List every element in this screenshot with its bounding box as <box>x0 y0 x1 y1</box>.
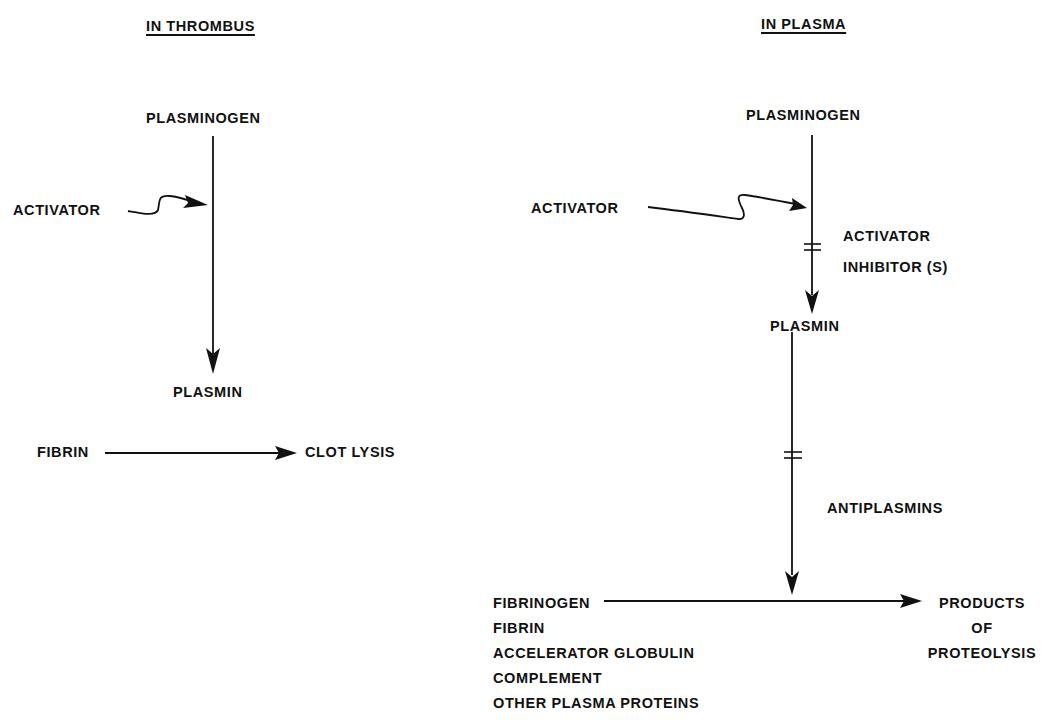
right-activator-arrow <box>648 195 807 219</box>
activator-inhibitor-label-line2: INHIBITOR (S) <box>843 259 948 275</box>
right-plasmin-label: PLASMIN <box>770 318 839 334</box>
left-activator-arrow <box>128 195 208 214</box>
products-of-proteolysis-label: PRODUCTS OF PROTEOLYSIS <box>928 591 1036 666</box>
right-activator-label: ACTIVATOR <box>531 200 619 216</box>
clot-lysis-label: CLOT LYSIS <box>305 444 395 460</box>
products-line2: OF <box>928 616 1036 641</box>
substrate-other-plasma-proteins: OTHER PLASMA PROTEINS <box>493 691 699 716</box>
right-plasmin-to-proteolysis-arrow <box>785 332 799 595</box>
antiplasmins-label: ANTIPLASMINS <box>827 500 943 516</box>
activator-inhibitor-label-line1: ACTIVATOR <box>843 228 931 244</box>
antiplasmins-block-mark <box>784 452 802 458</box>
fibrinolysis-diagram: IN THROMBUS PLASMINOGEN ACTIVATOR PLASMI… <box>0 0 1056 720</box>
substrate-list: FIBRINOGEN FIBRIN ACCELERATOR GLOBULIN C… <box>493 591 699 716</box>
right-plasminogen-label: PLASMINOGEN <box>746 107 861 123</box>
left-plasmin-label: PLASMIN <box>173 384 242 400</box>
in-plasma-heading: IN PLASMA <box>761 16 846 32</box>
left-plasminogen-label: PLASMINOGEN <box>146 110 261 126</box>
products-line3: PROTEOLYSIS <box>928 641 1036 666</box>
right-plasminogen-to-plasmin-arrow <box>805 135 819 314</box>
left-activator-label: ACTIVATOR <box>13 202 101 218</box>
in-thrombus-heading: IN THROMBUS <box>146 18 255 34</box>
substrate-fibrin: FIBRIN <box>493 616 699 641</box>
products-line1: PRODUCTS <box>928 591 1036 616</box>
left-fibrin-label: FIBRIN <box>37 444 89 460</box>
substrate-fibrinogen: FIBRINOGEN <box>493 591 699 616</box>
left-fibrin-to-clot-lysis-arrow <box>105 446 297 460</box>
substrate-accelerator-globulin: ACCELERATOR GLOBULIN <box>493 641 699 666</box>
left-plasminogen-to-plasmin-arrow <box>206 136 220 374</box>
substrate-complement: COMPLEMENT <box>493 666 699 691</box>
